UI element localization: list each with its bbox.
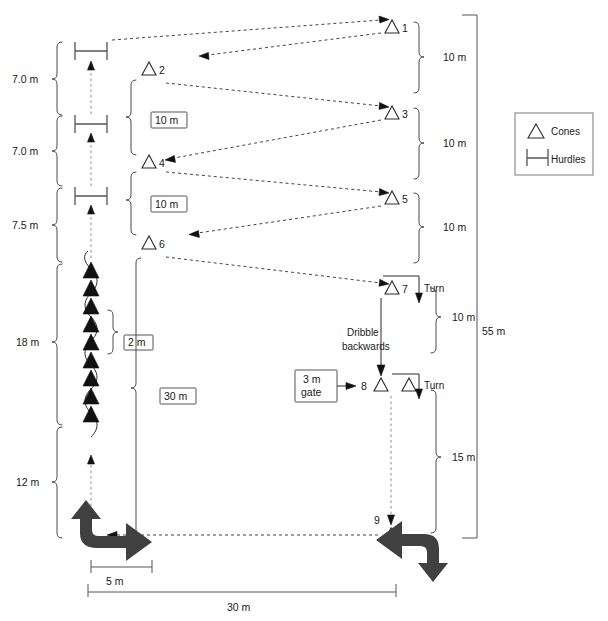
- cone-9-number: 9: [374, 514, 380, 526]
- bottom-long-dimension: 30 m: [88, 584, 396, 613]
- cone-1: 1: [385, 20, 408, 34]
- gate-callout: 3 m gate: [295, 370, 356, 402]
- left-dim-label-3: 18 m: [16, 336, 40, 348]
- cone-6-number: 6: [159, 238, 165, 250]
- right-dimension-braces: [414, 22, 441, 533]
- slalom-spacing-dimension: 2 m: [108, 310, 153, 354]
- hurdle-2: [75, 115, 107, 133]
- cone-8a: 8: [361, 378, 388, 392]
- cone-3-number: 3: [402, 108, 408, 120]
- left-dim-label-2: 7.5 m: [12, 219, 39, 231]
- right-dim-label-4: 15 m: [452, 451, 476, 463]
- right-dim-label-3: 10 m: [452, 311, 476, 323]
- legend-cones-label: Cones: [551, 126, 580, 137]
- slalom-spacing-label: 2 m: [128, 336, 146, 348]
- finish-turn-arrow: [376, 521, 448, 582]
- return-path: [107, 532, 378, 539]
- right-dim-label-1: 10 m: [443, 137, 467, 149]
- gap-1-label: 10 m: [155, 114, 179, 126]
- hurdle-3: [75, 187, 107, 205]
- hurdle-1: [75, 42, 107, 60]
- cone-6: 6: [142, 236, 165, 250]
- start-turn-arrow: [71, 500, 152, 561]
- slalom-section: [83, 251, 99, 437]
- diagram-canvas: 7.0 m 7.0 m 7.5 m 18 m 12 m: [0, 0, 608, 621]
- bottom-long-label: 30 m: [227, 601, 251, 613]
- left-dim-label-1: 7.0 m: [12, 145, 39, 157]
- right-dim-label-0: 10 m: [443, 51, 467, 63]
- cone-7-number: 7: [402, 283, 408, 295]
- lane-length-dimension: 30 m: [131, 258, 196, 535]
- dribble-backwards-group: Dribble backwards: [342, 298, 390, 376]
- left-dimension-braces: [52, 42, 62, 538]
- lane-length-label: 30 m: [164, 390, 188, 402]
- right-dim-label-2: 10 m: [443, 221, 467, 233]
- left-dimension-labels: 7.0 m 7.0 m 7.5 m 18 m 12 m: [12, 73, 40, 488]
- cone-8-number: 8: [361, 380, 367, 392]
- cone-2-number: 2: [159, 64, 165, 76]
- right-dimension-labels: 10 m 10 m 10 m 10 m 15 m: [443, 51, 476, 463]
- cone-5-number: 5: [402, 193, 408, 205]
- turn-2-label: Turn: [424, 380, 444, 391]
- dribble-label-line2: backwards: [342, 341, 390, 352]
- path-to-cone9: [388, 396, 395, 525]
- field-layout-diagram: 7.0 m 7.0 m 7.5 m 18 m 12 m: [0, 0, 608, 621]
- cone-2: 2: [142, 62, 165, 76]
- dribble-label-line1: Dribble: [347, 327, 379, 338]
- cone-7: 7: [385, 281, 408, 295]
- cone-4: 4: [142, 155, 165, 169]
- cone-1-number: 1: [402, 22, 408, 34]
- cone-3: 3: [385, 106, 408, 120]
- legend-hurdles-label: Hurdles: [551, 154, 585, 165]
- gate-label-line2: gate: [301, 386, 322, 398]
- legend: Cones Hurdles: [515, 113, 593, 175]
- gap-2-label: 10 m: [155, 198, 179, 210]
- overall-height-label: 55 m: [482, 325, 506, 337]
- cone-4-number: 4: [159, 157, 165, 169]
- left-dim-label-0: 7.0 m: [12, 73, 39, 85]
- bottom-short-label: 5 m: [106, 575, 124, 587]
- gate-label-line1: 3 m: [303, 373, 321, 385]
- bottom-short-dimension: 5 m: [91, 560, 152, 587]
- cone-8b: [402, 378, 416, 391]
- cones-group: 1 2 3 4 5 6 7 8 9: [142, 20, 416, 541]
- left-dim-label-4: 12 m: [16, 476, 40, 488]
